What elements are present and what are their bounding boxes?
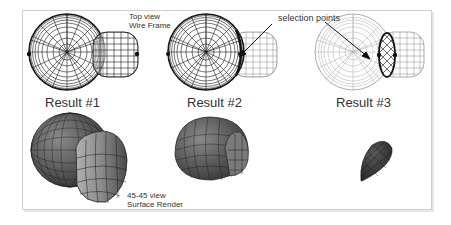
top-view-annotation: Top view Wire Frame [129,12,171,30]
result2-surface [175,117,248,180]
selection-points-label: selection points [278,14,340,23]
result3-surface [361,141,392,181]
result2-wireframe [166,14,277,90]
result1-surface [31,113,127,203]
result1-wireframe [27,14,139,90]
iso-view-annotation: 45-45 view Surface Render [127,191,183,209]
wire-frame-label: Wire Frame [129,21,171,30]
iso-view-label: 45-45 view [127,191,183,200]
top-view-label: Top view [129,12,171,21]
result2-title: Result #2 [187,95,242,110]
surface-render-label: Surface Render [127,200,183,209]
result1-title: Result #1 [45,95,100,110]
result3-title: Result #3 [336,95,391,110]
result3-wireframe [315,14,424,90]
diagram-canvas [0,0,451,225]
